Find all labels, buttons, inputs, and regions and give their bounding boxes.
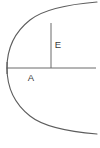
parabola-lower-branch-path — [7, 68, 97, 134]
parabola-upper-branch-path — [7, 2, 97, 68]
label-ordinate-e: E — [55, 39, 61, 50]
label-abscissa-a: A — [28, 72, 35, 83]
figure-container: E A — [0, 0, 100, 148]
caption-strip — [0, 136, 100, 148]
parabola-diagram: E A — [0, 0, 100, 148]
